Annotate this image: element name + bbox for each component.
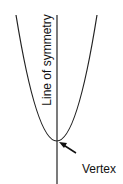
axis-label: Line of symmetry — [40, 14, 54, 105]
vertex-label: Vertex — [82, 162, 116, 176]
diagram-canvas: Line of symmetry Vertex — [0, 0, 123, 184]
parabola-diagram: Line of symmetry Vertex — [0, 0, 123, 184]
